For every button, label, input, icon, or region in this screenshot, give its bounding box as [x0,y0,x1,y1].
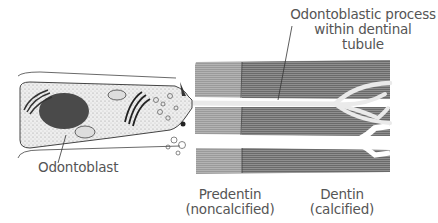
label-line: (noncalcified) [180,202,280,217]
label-line: within dentinal [288,22,438,37]
odontoblastic-process-label: Odontoblastic process within dentinal tu… [288,7,438,52]
predentin-label: Predentin (noncalcified) [180,187,280,217]
odontoblast-cell [18,72,192,158]
label-line: (calcified) [302,202,382,217]
label-line: Predentin [180,187,280,202]
label-line: Odontoblastic process [288,7,438,22]
dentin-label: Dentin (calcified) [302,187,382,217]
label-line: Dentin [302,187,382,202]
label-line: tubule [288,37,438,52]
odontoblast-label: Odontoblast [38,160,118,175]
nucleus [39,93,89,129]
